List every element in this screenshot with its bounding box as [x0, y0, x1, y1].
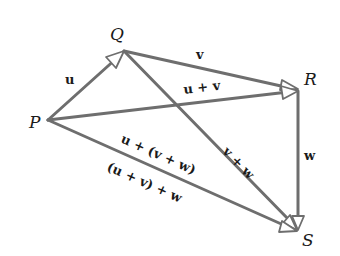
vector-label-w: w [303, 148, 316, 163]
vector-label-u-plus-v: u + v [183, 78, 222, 97]
point-label-p: P [28, 112, 41, 132]
vector-label-v-plus-w: v + w [219, 143, 258, 183]
vector-label-u: u [65, 72, 74, 87]
vector-v-plus-w-line [124, 51, 291, 222]
vector-u-line [48, 57, 118, 120]
point-label-q: Q [110, 24, 124, 44]
vector-diagram: P Q R S u v w u + v v + w u + (v + w) (u… [0, 0, 340, 256]
vector-label-v: v [195, 47, 204, 62]
point-label-s: S [302, 230, 314, 250]
point-label-r: R [303, 69, 317, 89]
diagram-svg: P Q R S u v w u + v v + w u + (v + w) (u… [0, 0, 340, 256]
